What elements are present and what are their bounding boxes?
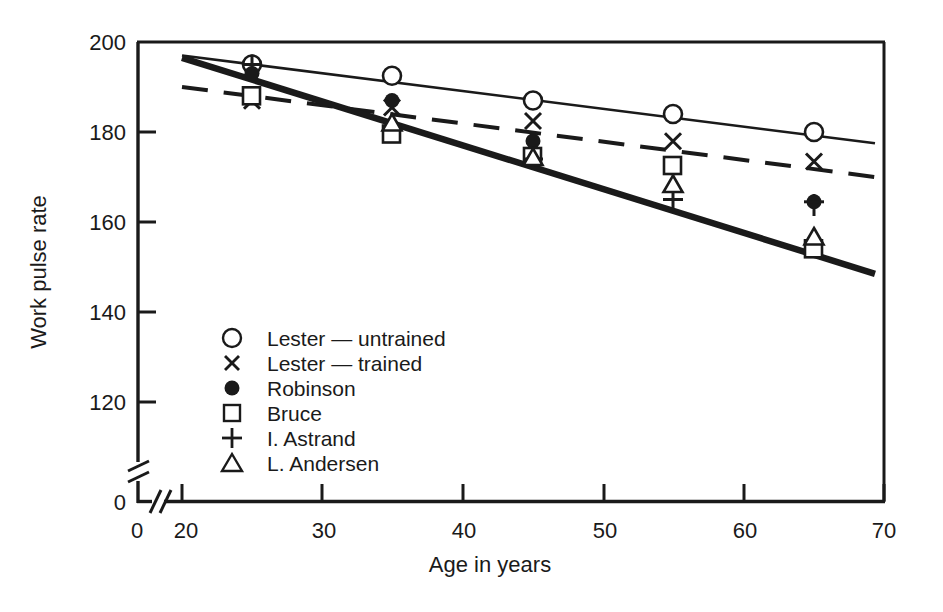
data-point (805, 123, 823, 141)
data-point (524, 92, 542, 110)
x-axis-title: Age in years (429, 552, 551, 577)
x-tick-label-60: 60 (733, 518, 757, 543)
legend-label: Bruce (267, 402, 322, 425)
y-axis-title: Work pulse rate (26, 195, 51, 349)
x-tick-label-0: 0 (131, 518, 143, 543)
chart-figure: 200 180 160 140 120 0 0 20 30 40 50 60 7… (0, 0, 943, 612)
data-point (383, 67, 401, 85)
y-tick-label-180: 180 (89, 120, 126, 145)
legend-item-bruce: Bruce (224, 402, 322, 425)
legend-label: Lester — untrained (267, 327, 446, 350)
x-tick-label-70: 70 (872, 518, 896, 543)
x-tick-label-40: 40 (452, 518, 476, 543)
legend-label: L. Andersen (267, 452, 379, 475)
y-tick-label-160: 160 (89, 210, 126, 235)
legend-label: Robinson (267, 377, 356, 400)
legend-label: Lester — trained (267, 352, 422, 375)
filled-circle-icon (225, 381, 240, 396)
data-point (243, 87, 260, 104)
data-point (664, 157, 681, 174)
y-tick-label-200: 200 (89, 30, 126, 55)
open-circle-icon (223, 329, 241, 347)
x-tick-label-20: 20 (174, 518, 198, 543)
y-tick-label-0: 0 (114, 490, 126, 515)
chart-canvas: 200 180 160 140 120 0 0 20 30 40 50 60 7… (0, 0, 943, 612)
y-tick-label-120: 120 (89, 390, 126, 415)
open-square-icon (224, 405, 240, 421)
data-point (385, 93, 400, 108)
x-tick-label-50: 50 (593, 518, 617, 543)
legend-label: I. Astrand (267, 427, 356, 450)
y-tick-label-140: 140 (89, 300, 126, 325)
x-tick-label-30: 30 (312, 518, 336, 543)
data-point (664, 105, 682, 123)
